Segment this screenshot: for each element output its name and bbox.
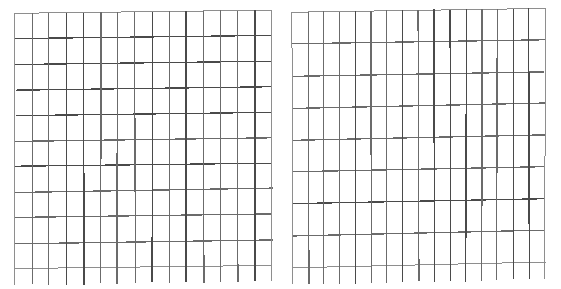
right-grid-vline-11 <box>466 9 467 282</box>
right-grid-vline-16 <box>545 8 546 279</box>
right-grid-vline-1 <box>308 12 309 285</box>
right-grid-vline-15 <box>529 8 530 278</box>
right-grid-lines <box>292 8 546 284</box>
right-grid-hline-0 <box>292 8 545 12</box>
right-grid-vline-8 <box>418 10 419 282</box>
right-grid-vline-13 <box>497 9 498 280</box>
right-grid-svg <box>0 0 561 289</box>
page-canvas <box>0 0 561 289</box>
right-grid-figure <box>0 0 561 289</box>
